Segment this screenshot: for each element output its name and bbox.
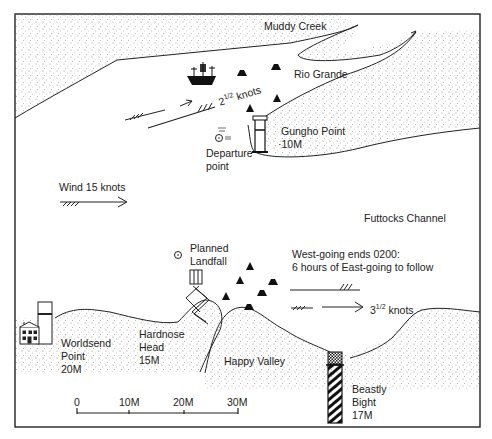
label-lower-tide-rate: 31/2 knots [370,300,414,317]
label-muddy-creek: Muddy Creek [264,20,326,33]
lower-tide-arrows [290,284,363,312]
label-tide-note-2: 6 hours of East-going to follow [292,261,433,274]
label-planned-2: Landfall [190,255,227,268]
scale-tick-30: 30M [227,396,247,409]
position-fix-icon [216,128,232,142]
label-worldsend-1: Worldsend [61,337,111,350]
ship-icon [187,62,216,85]
scale-tick-10: 10M [119,396,139,409]
tide-rate-fraction: 1/2 [223,91,234,101]
label-beastly-2: Bight [352,396,376,409]
striped-beacon-icon [326,352,344,423]
scale-tick-20: 20M [173,396,193,409]
label-hardnose-range: 15M [139,354,159,367]
rock-icons-south [222,262,278,314]
scale-bar [77,408,238,414]
wind-arrow-icon [60,197,127,207]
scale-tick-0: 0 [74,396,80,409]
label-rio-grande: Rio Grande [294,68,348,81]
tide-rate-fraction: 1/2 [376,303,386,310]
label-beastly-range: 17M [352,409,372,422]
label-worldsend-2: Point [61,350,85,363]
label-beastly-1: Beastly [352,383,386,396]
label-gungho-point: Gungho Point [281,125,345,138]
gungho-range-value: 10M [282,138,302,150]
upper-tide-arrows [125,100,215,128]
tide-arrow-icon [180,100,192,106]
label-hardnose-1: Hardnose [139,328,185,341]
label-futtocks-channel: Futtocks Channel [364,212,446,225]
tide-rate-unit: knots [389,304,414,316]
label-worldsend-range: 20M [61,363,81,376]
label-planned-1: Planned [190,242,229,255]
label-wind: Wind 15 knots [59,181,126,194]
label-tide-note-1: West-going ends 0200: [292,248,400,261]
label-departure-1: Departure [206,147,253,160]
label-hardnose-2: Head [139,341,164,354]
label-departure-2: point [206,160,229,173]
label-gungho-range: ·10M [278,138,302,151]
position-fix-icon [175,252,182,259]
label-happy-valley: Happy Valley [224,355,285,368]
